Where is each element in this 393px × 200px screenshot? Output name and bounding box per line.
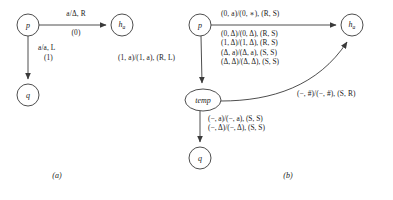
edge-label-a-p-q-line2: (1) <box>44 53 53 62</box>
edge-label-b-temp-q-1: (−, a)/(−, a), (S, S) <box>208 114 265 123</box>
edge-label-b-temp-ha: (−, #)/(−, #), (S, R) <box>297 89 355 98</box>
figure-canvas: p ha q a/Δ, R (0) a/a, L (1) (a) p ha te… <box>0 0 393 200</box>
edge-label-b-temp-q-group: (−, a)/(−, a), (S, S) (−, Δ)/(−, Δ), (S,… <box>208 114 265 133</box>
edge-label-b-stacked-2: (1, Δ)/(1, Δ), (R, S) <box>221 38 279 47</box>
edge-label-b-stacked-1: (0, Δ)/(0, Δ), (R, S) <box>221 29 279 38</box>
edge-label-b-temp-q-2: (−, Δ)/(−, Δ), (S, S) <box>208 123 265 132</box>
caption-b: (b) <box>283 171 292 180</box>
node-label-a-q: q <box>26 91 30 100</box>
edge-label-b-p-ha: (0, a)/(0, ∗), (R, S) <box>221 9 279 18</box>
node-label-a-ha: ha <box>119 20 126 29</box>
edge-label-a-p-q-line1: a/a, L <box>38 43 55 52</box>
caption-a: (a) <box>52 171 61 180</box>
node-label-b-temp: temp <box>195 96 211 105</box>
edge-label-a-p-ha-above: a/Δ, R <box>66 9 85 18</box>
edge-label-b-p-temp: (1, a)/(1, a), (R, L) <box>118 53 175 62</box>
edge-b-p-to-temp <box>201 36 202 83</box>
node-label-b-p: p <box>198 21 202 30</box>
edge-label-a-p-ha-below: (0) <box>72 28 81 37</box>
edge-label-b-stacked-3: (Δ, a)/(Δ, a), (S, S) <box>221 48 279 57</box>
node-label-b-q: q <box>198 154 202 163</box>
edge-label-b-stacked-4: (Δ, Δ)/(Δ, Δ), (S, S) <box>221 57 279 66</box>
edge-label-b-stacked-group: (0, Δ)/(0, Δ), (R, S) (1, Δ)/(1, Δ), (R,… <box>221 29 279 66</box>
node-label-b-ha: ha <box>349 20 356 29</box>
node-label-a-p: p <box>26 21 30 30</box>
